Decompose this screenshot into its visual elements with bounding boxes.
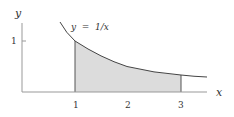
tick-label-y1: 1 [11, 36, 17, 46]
equation-label: y = 1/x [70, 22, 109, 32]
x-axis-label: x [216, 86, 223, 99]
tick-label-x3: 3 [178, 100, 184, 110]
y-axis-label: y [14, 7, 22, 20]
tick-label-x2: 2 [125, 100, 131, 110]
tick-label-x1: 1 [73, 100, 79, 110]
chart-canvas: y x y = 1/x 1 2 3 1 [0, 0, 234, 117]
